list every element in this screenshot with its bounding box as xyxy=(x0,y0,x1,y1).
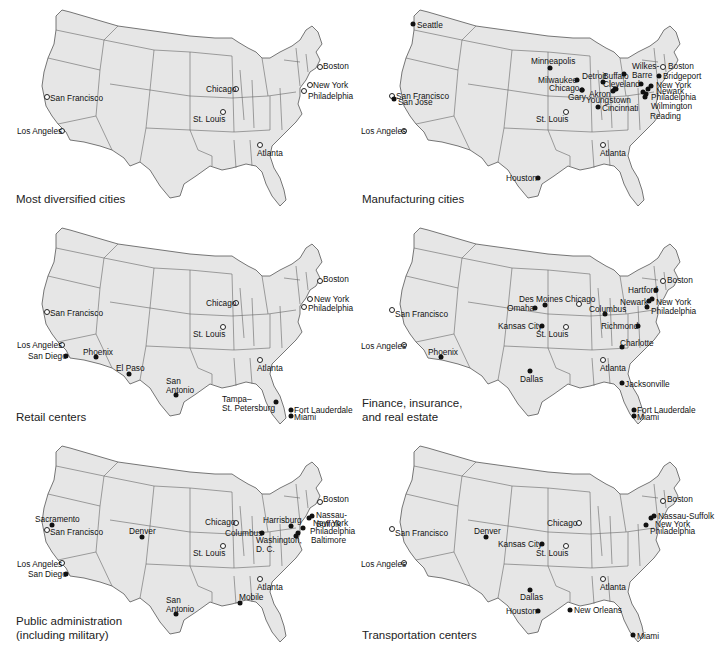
city-label: Dallas xyxy=(520,593,543,602)
city-label: Gary xyxy=(568,93,586,102)
city-label: St. Louis xyxy=(536,330,568,339)
city-label: Baltimore xyxy=(311,536,346,545)
city-label: San Antonio xyxy=(166,377,194,395)
filled-dot-marker-icon xyxy=(631,633,636,638)
city-label: Chicago xyxy=(205,518,235,527)
filled-dot-marker-icon xyxy=(289,408,294,413)
city-label: Atlanta xyxy=(600,583,626,592)
city-label: Columbus xyxy=(589,305,626,314)
us-map xyxy=(0,218,358,436)
city-label: Minneapolis xyxy=(531,57,575,66)
filled-dot-marker-icon xyxy=(644,523,649,528)
city-label: Los Angeles xyxy=(361,127,406,136)
filled-dot-marker-icon xyxy=(307,516,312,521)
city-label: St. Louis xyxy=(193,330,225,339)
filled-dot-marker-icon xyxy=(548,66,553,71)
city-label: Hartford xyxy=(628,286,658,295)
filled-dot-marker-icon xyxy=(528,369,533,374)
city-label: Atlanta xyxy=(600,149,626,158)
city-label: Philadelphia xyxy=(308,304,353,313)
city-label: Reading xyxy=(650,112,681,121)
city-label: El Paso xyxy=(116,364,145,373)
map-panel-public-admin: Public administration (including militar… xyxy=(0,436,358,654)
city-label: Cleveland xyxy=(603,80,640,89)
city-label: Tampa– St. Petersburg xyxy=(222,395,275,413)
city-label: New Orleans xyxy=(574,606,622,615)
city-label: Denver xyxy=(474,527,501,536)
panel-caption: Most diversified cities xyxy=(16,192,125,206)
map-panel-retail: Retail centers BostonNew YorkChicagoPhil… xyxy=(0,218,358,436)
city-label: Miami xyxy=(637,632,659,641)
open-circle-marker-icon xyxy=(301,304,307,310)
city-label: Los Angeles xyxy=(361,342,406,351)
city-label: San Francisco xyxy=(50,309,103,318)
city-label: Harrisburg xyxy=(263,516,302,525)
filled-dot-marker-icon xyxy=(649,516,654,521)
filled-dot-marker-icon xyxy=(620,381,625,386)
filled-dot-marker-icon xyxy=(568,608,573,613)
open-circle-marker-icon xyxy=(301,88,307,94)
filled-dot-marker-icon xyxy=(411,22,416,27)
city-label: St. Louis xyxy=(536,549,568,558)
city-label: Phoenix xyxy=(428,348,458,357)
city-label: St. Louis xyxy=(193,549,225,558)
filled-dot-marker-icon xyxy=(632,414,637,419)
city-label: Miami xyxy=(637,413,659,422)
city-label: San Jose xyxy=(398,98,433,107)
city-label: Los Angeles xyxy=(361,560,406,569)
city-label: Los Angeles xyxy=(17,341,62,350)
open-circle-marker-icon xyxy=(307,296,313,302)
city-label: Jacksonville xyxy=(625,380,670,389)
filled-dot-marker-icon xyxy=(614,87,619,92)
city-label: St. Louis xyxy=(193,115,225,124)
panel-caption: Public administration (including militar… xyxy=(16,614,122,642)
city-label: San Francisco xyxy=(395,310,448,319)
city-label: Washington, D. C. xyxy=(256,536,302,554)
filled-dot-marker-icon xyxy=(643,95,648,100)
city-label: Houston xyxy=(506,607,537,616)
city-label: Chicago xyxy=(206,299,236,308)
city-label: San Diego xyxy=(28,570,67,579)
map-panel-diversified: Most diversified cities BostonNew YorkPh… xyxy=(0,0,358,218)
city-label: Chicago xyxy=(565,295,595,304)
city-label: St. Louis xyxy=(536,115,568,124)
city-label: Los Angeles xyxy=(17,127,62,136)
panel-caption: Retail centers xyxy=(16,410,86,424)
city-label: Denver xyxy=(129,527,156,536)
city-label: Boston xyxy=(668,62,694,71)
panel-caption: Manufacturing cities xyxy=(362,192,464,206)
city-label: New York xyxy=(313,81,348,90)
city-label: Boston xyxy=(323,275,349,284)
panel-caption: Finance, insurance, and real estate xyxy=(362,396,462,424)
panel-caption: Transportation centers xyxy=(362,628,477,642)
us-map xyxy=(0,0,358,218)
city-label: Philadelphia xyxy=(650,527,695,536)
city-label: San Antonio xyxy=(166,596,194,614)
city-label: Los Angeles xyxy=(17,560,62,569)
city-label: Houston xyxy=(506,174,537,183)
map-panel-manufacturing: Manufacturing cities SeattleMinneapolisB… xyxy=(358,0,716,218)
us-outline xyxy=(42,10,322,206)
map-panel-transportation: Transportation centers BostonNassau-Suff… xyxy=(358,436,716,654)
filled-dot-marker-icon xyxy=(289,414,294,419)
city-label: Charlotte xyxy=(620,339,654,348)
city-label: Chicago xyxy=(206,85,236,94)
map-panel-finance: Finance, insurance, and real estate Bost… xyxy=(358,218,716,436)
city-label: Sacramento xyxy=(35,515,80,524)
city-label: Atlanta xyxy=(600,364,626,373)
city-label: Phoenix xyxy=(83,348,113,357)
city-label: Wilmington xyxy=(651,102,692,111)
city-label: Atlanta xyxy=(257,583,283,592)
city-label: Atlanta xyxy=(257,149,283,158)
city-label: Wilkes- Barre xyxy=(632,62,659,80)
city-label: Miami xyxy=(294,413,316,422)
filled-dot-marker-icon xyxy=(650,297,655,302)
city-label: San Francisco xyxy=(50,528,103,537)
city-label: Philadelphia xyxy=(651,307,696,316)
city-label: Seattle xyxy=(417,21,443,30)
city-label: Boston xyxy=(323,62,349,71)
city-label: Omaha xyxy=(507,304,534,313)
city-label: Dallas xyxy=(520,375,543,384)
city-label: Chicago xyxy=(547,519,577,528)
filled-dot-marker-icon xyxy=(641,90,646,95)
